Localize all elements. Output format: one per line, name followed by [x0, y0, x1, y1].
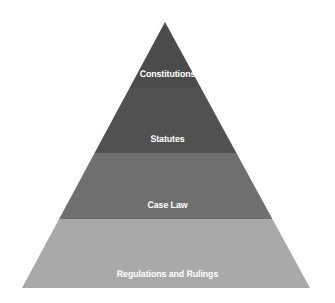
- pyramid-label-statutes: Statutes: [12, 134, 324, 145]
- pyramid-label-regulations-and-rulings: Regulations and Rulings: [12, 269, 324, 280]
- pyramid-diagram: Constitutions Statutes Case Law Regulati…: [0, 0, 335, 303]
- pyramid-label-case-law: Case Law: [12, 200, 324, 211]
- pyramid-label-constitutions: Constitutions: [12, 69, 324, 80]
- pyramid-shape: [0, 0, 335, 303]
